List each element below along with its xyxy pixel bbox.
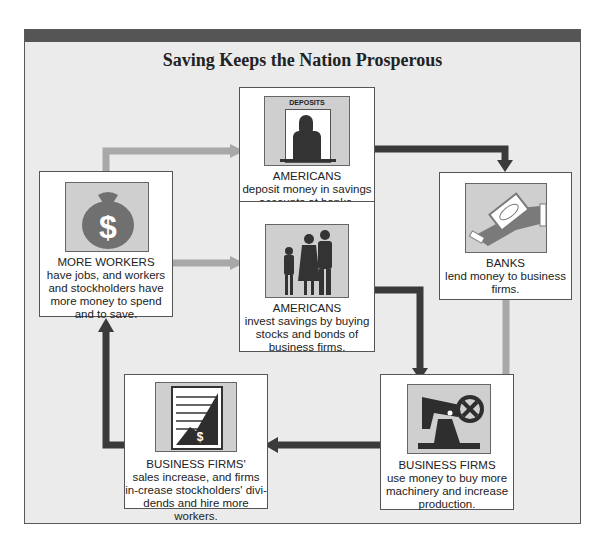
- arrow-workers-to-deposit: [106, 151, 232, 171]
- box-workers: $ MORE WORKERS have jobs, and workers an…: [39, 171, 173, 317]
- svg-text:$: $: [197, 430, 204, 444]
- money-bag-icon: $: [65, 182, 149, 252]
- workers-heading: MORE WORKERS: [40, 256, 172, 269]
- deposit-heading: AMERICANS: [240, 170, 374, 183]
- box-invest: AMERICANS invest savings by buying stock…: [239, 201, 375, 352]
- firms-sales-heading: BUSINESS FIRMS': [125, 458, 267, 471]
- invest-body: invest savings by buying stocks and bond…: [245, 315, 370, 353]
- family-icon: [265, 224, 349, 298]
- box-firms-sales: $ BUSINESS FIRMS' sales increase, and fi…: [124, 374, 268, 509]
- machinery-icon: [407, 384, 491, 454]
- teller-icon: DEPOSITS: [264, 96, 350, 166]
- banks-body: lend money to business firms.: [445, 270, 566, 295]
- hand-money-icon: [465, 183, 547, 253]
- firms-sales-body: sales increase, and firms in-crease stoc…: [125, 471, 267, 522]
- box-banks: BANKS lend money to business firms.: [439, 172, 572, 300]
- firms-use-heading: BUSINESS FIRMS: [381, 459, 513, 472]
- box-firms-use: BUSINESS FIRMS use money to buy more mac…: [380, 374, 514, 510]
- banks-heading: BANKS: [440, 257, 571, 270]
- invest-heading: AMERICANS: [240, 302, 374, 315]
- sales-chart-icon: $: [155, 382, 237, 452]
- box-deposit: DEPOSITS AMERICANS deposit money in savi…: [239, 87, 375, 202]
- firms-use-body: use money to buy more machinery and incr…: [386, 472, 508, 510]
- deposits-sign: DEPOSITS: [265, 99, 349, 107]
- workers-body: have jobs, and workers and stockholders …: [47, 269, 165, 320]
- svg-text:$: $: [99, 209, 117, 245]
